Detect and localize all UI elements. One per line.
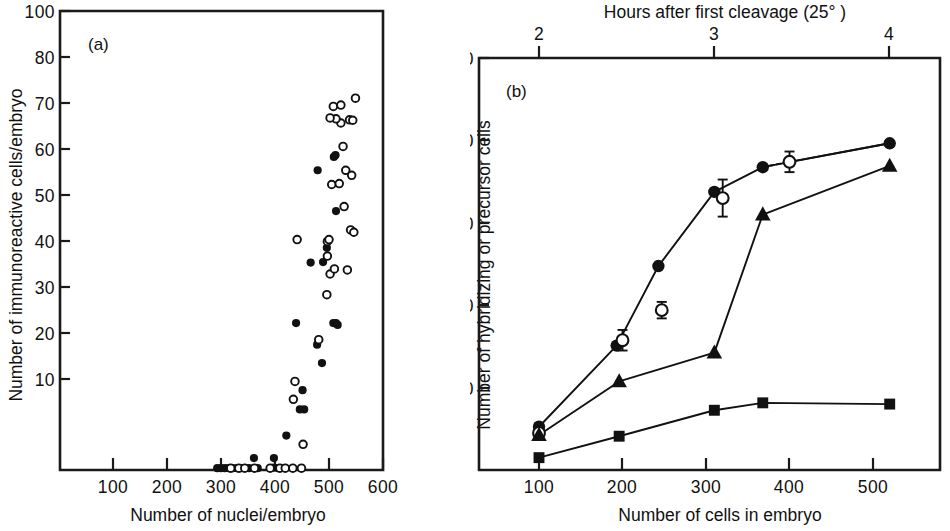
- marker-filled-circle: [884, 137, 896, 149]
- xtick-b-400: 400: [774, 477, 804, 497]
- data-point-filled-circle: [250, 454, 258, 462]
- xtick-b-200: 200: [607, 477, 637, 497]
- marker-open-circle: [617, 334, 629, 346]
- marker-filled-square: [534, 452, 545, 463]
- data-point-open-circle: [315, 336, 323, 344]
- toptick-4: 4: [884, 24, 894, 44]
- ytick-b-80: 80: [470, 131, 474, 151]
- data-point-open-circle: [251, 464, 259, 472]
- xtick-b-300: 300: [691, 477, 721, 497]
- xtick-100: 100: [98, 477, 128, 497]
- marker-filled-circle: [652, 260, 664, 272]
- xtick-b-500: 500: [858, 477, 888, 497]
- ytick-30: 30: [35, 278, 55, 298]
- marker-filled-square: [709, 405, 720, 416]
- panel-a-xlabel: Number of nuclei/embryo: [130, 505, 326, 525]
- panel-b-xlabel: Number of cells in embryo: [618, 505, 821, 525]
- xtick-b-100: 100: [524, 477, 554, 497]
- xtick-600: 600: [368, 477, 398, 497]
- data-point-open-circle: [337, 101, 345, 109]
- marker-open-circle: [784, 156, 796, 168]
- data-point-filled-circle: [298, 386, 306, 394]
- ytick-10: 10: [35, 370, 55, 390]
- data-point-filled-circle: [300, 405, 308, 413]
- data-point-filled-circle: [331, 151, 339, 159]
- data-point-open-circle: [340, 203, 348, 211]
- data-point-open-circle: [349, 116, 357, 124]
- data-point-open-circle: [331, 265, 339, 273]
- data-point-open-circle: [330, 103, 338, 111]
- panel-a: Number of immunoreactive cells/embryo (a…: [0, 0, 470, 531]
- xtick-200: 200: [152, 477, 182, 497]
- data-point-open-circle: [350, 228, 358, 236]
- panel-b-svg: Hours after first cleavage (25° ) Number…: [470, 0, 950, 531]
- data-point-open-circle: [298, 464, 306, 472]
- panel-b-xticks: 100 200 300 400 500: [524, 458, 888, 497]
- marker-filled-triangle: [882, 158, 898, 172]
- ytick-b-40: 40: [470, 296, 474, 316]
- ytick-b-100: 100: [470, 49, 474, 69]
- ytick-80: 80: [35, 48, 55, 68]
- panel-a-yticks: 100 80 70 60 50 40 30 20 10: [25, 2, 70, 390]
- data-point-open-circle: [328, 181, 336, 189]
- data-point-open-circle: [326, 114, 334, 122]
- data-point-open-circle: [289, 464, 297, 472]
- data-point-open-circle: [335, 180, 343, 188]
- toptick-2: 2: [534, 24, 544, 44]
- panel-b-topticks: 2 3 4: [534, 24, 894, 58]
- ytick-60: 60: [35, 140, 55, 160]
- data-point-open-circle: [352, 94, 360, 102]
- data-point-filled-circle: [270, 454, 278, 462]
- panel-b-top-label: Hours after first cleavage (25° ): [604, 2, 846, 22]
- ytick-50: 50: [35, 186, 55, 206]
- figure-root: Number of immunoreactive cells/embryo (a…: [0, 0, 950, 531]
- data-point-open-circle: [290, 396, 298, 404]
- marker-filled-square: [614, 431, 625, 442]
- data-point-filled-circle: [307, 258, 315, 266]
- marker-open-circle: [656, 304, 668, 316]
- ytick-b-20: 20: [470, 379, 474, 399]
- panel-a-xticks: 100 200 300 400 500 600: [98, 458, 398, 497]
- panel-a-scatter-points: [213, 94, 359, 472]
- data-point-filled-circle: [334, 321, 342, 329]
- xtick-300: 300: [206, 477, 236, 497]
- data-point-open-circle: [241, 464, 249, 472]
- data-point-open-circle: [325, 236, 333, 244]
- data-point-open-circle: [344, 266, 352, 274]
- data-point-filled-circle: [332, 207, 340, 215]
- series-link-open-to-filled: [790, 143, 890, 162]
- xtick-400: 400: [260, 477, 290, 497]
- data-point-open-circle: [348, 172, 356, 180]
- data-point-open-circle: [323, 291, 331, 299]
- series-line-filled-triangle: [539, 166, 890, 435]
- marker-open-circle: [717, 192, 729, 204]
- data-point-open-circle: [281, 464, 289, 472]
- toptick-3: 3: [709, 24, 719, 44]
- panel-a-frame: [60, 11, 383, 470]
- panel-b: Hours after first cleavage (25° ) Number…: [470, 0, 950, 531]
- marker-filled-circle: [757, 161, 769, 173]
- data-point-open-circle: [227, 464, 235, 472]
- panel-b-ylabel: Number of hybridizing or precursor cells: [474, 120, 494, 430]
- data-point-open-circle: [339, 143, 347, 151]
- data-point-filled-circle: [318, 359, 326, 367]
- data-point-open-circle: [324, 252, 332, 260]
- data-point-filled-circle: [314, 166, 322, 174]
- ytick-b-60: 60: [470, 214, 474, 234]
- marker-filled-square: [757, 397, 768, 408]
- data-point-open-circle: [293, 236, 301, 244]
- ytick-20: 20: [35, 324, 55, 344]
- panel-b-label: (b): [506, 82, 527, 101]
- panel-a-ylabel: Number of immunoreactive cells/embryo: [6, 88, 26, 401]
- xtick-500: 500: [314, 477, 344, 497]
- data-point-open-circle: [291, 378, 299, 386]
- ytick-70: 70: [35, 94, 55, 114]
- data-point-filled-circle: [292, 319, 300, 327]
- marker-filled-triangle: [707, 344, 723, 358]
- panel-a-label: (a): [88, 35, 109, 54]
- data-point-filled-circle: [282, 431, 290, 439]
- data-point-open-circle: [266, 464, 274, 472]
- panel-a-svg: Number of immunoreactive cells/embryo (a…: [0, 0, 470, 531]
- ytick-100: 100: [25, 2, 55, 22]
- marker-filled-square: [884, 399, 895, 410]
